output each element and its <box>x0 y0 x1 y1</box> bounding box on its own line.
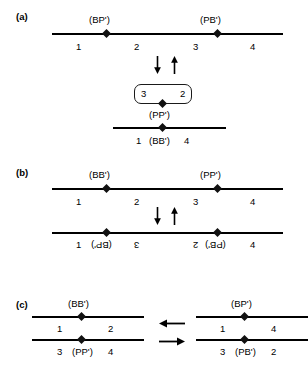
panel-c-left-top-chromosome-line <box>32 316 144 318</box>
segment-number-a-bottom-1: 1 <box>136 136 141 146</box>
segment-number-a-top-4: 4 <box>250 42 255 52</box>
segment-number-b-bottom-4: 4 <box>250 240 255 250</box>
panel-a-bottom-chromosome-line <box>113 127 226 129</box>
segment-number-c-left-top-2: 2 <box>108 324 113 334</box>
panel-c-left-bottom-chromosome-line <box>32 339 144 341</box>
segment-number-c-right-top-4: 4 <box>271 324 276 334</box>
marker-pb-prime-a-top <box>213 29 222 38</box>
label-pb-prime-c-right: (PB') <box>235 347 256 357</box>
panel-b-bottom-chromosome-line <box>52 232 283 234</box>
arrow-up-b <box>170 207 179 225</box>
marker-bp-prime-c-right-top <box>240 312 249 321</box>
panel-a-top-chromosome-line <box>52 33 283 35</box>
segment-number-a-top-1: 1 <box>76 42 81 52</box>
label-pp-prime-a: (PP') <box>149 110 170 120</box>
marker-pb-prime-b-bottom <box>213 228 222 237</box>
label-pp-prime-b-top: (PP') <box>200 170 221 180</box>
marker-bp-prime-b-bottom <box>102 228 111 237</box>
panel-c-right-bottom-chromosome-line <box>196 339 308 341</box>
label-bb-prime-c-left: (BB') <box>68 299 89 309</box>
panel-label-b: (b) <box>16 168 28 178</box>
segment-number-a-bottom-4: 4 <box>184 136 189 146</box>
marker-bb-prime-c-left-top <box>77 312 86 321</box>
panel-label-a: (a) <box>16 12 28 22</box>
segment-number-b-top-3: 3 <box>193 197 198 207</box>
figure-root: { "figure": { "title": "Chromosomal reco… <box>0 0 308 372</box>
segment-number-c-right-bottom-2: 2 <box>271 347 276 357</box>
segment-number-c-right-bottom-3: 3 <box>220 347 225 357</box>
marker-pp-prime-b-top <box>213 184 222 193</box>
segment-number-a-top-2: 2 <box>134 42 139 52</box>
label-bb-prime-a-bottom: (BB') <box>149 136 170 146</box>
segment-number-b-top-1: 1 <box>76 197 81 207</box>
arrow-down-b <box>153 207 162 225</box>
segment-number-b-bottom-1: 1 <box>76 240 81 250</box>
segment-number-b-top-2: 2 <box>134 197 139 207</box>
label-bp-prime-c-right: (BP') <box>231 299 252 309</box>
segment-number-b-top-4: 4 <box>250 197 255 207</box>
segment-number-a-top-3: 3 <box>193 42 198 52</box>
segment-number-c-left-bottom-4: 4 <box>108 347 113 357</box>
arrow-up-a <box>170 56 179 74</box>
arrow-left-c <box>159 318 185 329</box>
excised-segment-number-left-a: 3 <box>141 89 146 99</box>
marker-bp-prime-a-top <box>102 29 111 38</box>
arrow-right-c <box>159 336 185 347</box>
segment-number-b-bottom-3-inverted: 3 <box>134 240 139 250</box>
panel-label-c: (c) <box>16 300 28 310</box>
panel-c-right-top-chromosome-line <box>196 316 308 318</box>
segment-number-c-right-top-1: 1 <box>220 324 225 334</box>
label-pp-prime-c-left: (PP') <box>72 347 93 357</box>
marker-pp-prime-a <box>158 99 167 108</box>
marker-pp-prime-c-left-bottom <box>77 335 86 344</box>
arrow-down-a <box>153 56 162 74</box>
marker-bb-prime-a-bottom <box>158 123 167 132</box>
label-bp-prime-a-top: (BP') <box>89 15 110 25</box>
panel-b-top-chromosome-line <box>52 188 283 190</box>
marker-pb-prime-c-right-bottom <box>240 335 249 344</box>
label-bp-prime-b-bottom-inverted: (BP') <box>91 240 112 250</box>
marker-bb-prime-b-top <box>102 184 111 193</box>
label-bb-prime-b-top: (BB') <box>89 170 110 180</box>
excised-segment-number-right-a: 2 <box>180 89 185 99</box>
segment-number-b-bottom-2-inverted: 2 <box>193 240 198 250</box>
segment-number-c-left-top-1: 1 <box>57 324 62 334</box>
label-pb-prime-a-top: (PB') <box>200 15 221 25</box>
label-pb-prime-b-bottom-inverted: (PB') <box>205 240 226 250</box>
segment-number-c-left-bottom-3: 3 <box>57 347 62 357</box>
